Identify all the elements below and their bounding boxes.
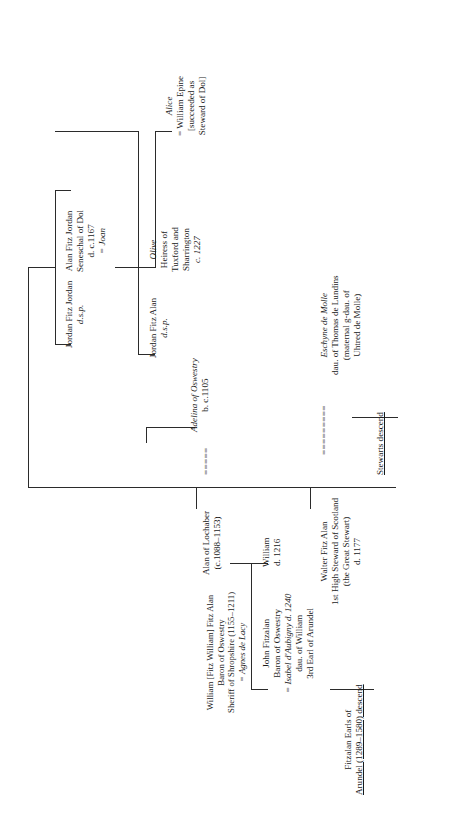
connector-top-spine-vert (138, 131, 139, 267)
person-alice: Alice = William Epine [succeeded as Stew… (164, 76, 208, 136)
connector-alanfj-out (115, 267, 139, 268)
connector-wfa-children-bracket (251, 563, 252, 690)
person-walter-fitz-alan: Walter Fitz Alan 1st High Steward of Sco… (319, 498, 363, 605)
descent-label-line-1: Fitzalan Earls of (343, 684, 354, 795)
person-note-2: Steward of Dol] (197, 76, 208, 136)
person-spouse: = Isabel d'Aubigny d. 1240 (283, 594, 294, 693)
connector-main-children-spine (28, 487, 396, 488)
person-name: Alan of Lochaber (201, 511, 212, 575)
marriage-link-2: ========= (319, 405, 329, 455)
person-dates: b. c.1105 (200, 358, 211, 432)
person-name: Alan Fitz Jordan (64, 210, 75, 272)
connector-stub-williamfa (196, 487, 197, 509)
person-title-1: 1st High Steward of Scotland (330, 498, 341, 605)
person-alan-fitz-jordan: Alan Fitz Jordan Seneschal of Dol d. c.1… (64, 210, 108, 272)
connector-alanfj-children (138, 267, 139, 355)
person-spouse: = William Epine (175, 76, 186, 136)
person-name: William (261, 538, 272, 567)
person-desc-2: (maternal g-dau. of (341, 275, 352, 375)
connector-stub-walterfa (310, 487, 311, 509)
person-adelina-of-oswestry: Adelina of Oswestry b. c.1105 (189, 358, 211, 432)
person-spouse: = Agnes de Lacy (237, 592, 248, 713)
person-olive: Olive Heiress of Tuxford and Sharrington… (148, 227, 203, 272)
connector-adelina-top (146, 427, 195, 428)
person-note: d.s.p. (159, 298, 170, 358)
person-desc-2: Tuxford and (170, 227, 181, 272)
person-desc-3: Sharrington (181, 227, 192, 272)
person-desc-1: dau. of Thomas de Lundins (330, 275, 341, 375)
person-spouse: = Joan (97, 210, 108, 272)
person-title: Baron of Oswestry (272, 594, 283, 693)
person-note: d.s.p. (75, 281, 86, 348)
connector-parent-stub-1 (28, 267, 56, 268)
marriage-link-1: ===== (201, 447, 211, 475)
connector-wfa-children-out (230, 563, 252, 564)
person-desc-2: 3rd Earl of Arundel (305, 594, 316, 693)
person-name: Olive (148, 227, 159, 272)
connector-sibling-stub-alan (55, 190, 71, 191)
person-name: Walter Fitz Alan (319, 498, 330, 605)
person-name: Jordan Fitz Jordan (64, 281, 75, 348)
descent-note-fitzalan: Fitzalan Earls of Arundel (1289–1580) de… (343, 684, 365, 795)
connector-adelina-vert (146, 427, 147, 443)
person-desc-1: dau. of William (294, 594, 305, 693)
person-title-2: (the Great Stewart) (341, 498, 352, 605)
person-jordan-fitz-jordan: Jordan Fitz Jordan d.s.p. (64, 281, 86, 348)
person-dates: d. 1177 (352, 498, 363, 605)
descent-label: Stewarts descend (375, 412, 386, 475)
person-name: Jordan Fitz Alan (148, 298, 159, 358)
person-dates: (c.1088–1153) (212, 511, 223, 575)
family-tree-chart: Jordan Fitz Jordan d.s.p. Alan Fitz Jord… (0, 0, 454, 815)
person-john-fitzalan: John Fitzalan Baron of Oswestry = Isabel… (261, 594, 316, 693)
person-dates: d. c.1167 (86, 210, 97, 272)
person-william-fitz-alan: William [Fitz William] Fitz Alan Baron o… (205, 592, 248, 713)
person-jordan-fitz-alan: Jordan Fitz Alan d.s.p. (148, 298, 170, 358)
person-title: Seneschal of Dol (75, 210, 86, 272)
descent-note-stewarts: Stewarts descend (375, 412, 386, 475)
person-name: John Fitzalan (261, 594, 272, 693)
person-name: Adelina of Oswestry (189, 358, 200, 432)
person-dates: c. 1227 (192, 227, 203, 272)
person-desc-3: Uhtred de Molle) (352, 275, 363, 375)
person-dates: d. 1216 (272, 538, 283, 567)
person-alan-of-lochaber: Alan of Lochaber (c.1088–1153) (201, 511, 223, 575)
connector-main-left-drop (28, 267, 29, 488)
person-name: William [Fitz William] Fitz Alan (205, 592, 216, 713)
person-title-2: Sheriff of Shropshire (1155–1211) (226, 592, 237, 713)
person-william-d1216: William d. 1216 (261, 538, 283, 567)
person-title-1: Baron of Oswestry (216, 592, 227, 713)
person-desc-1: Heiress of (159, 227, 170, 272)
connector-top-spine (55, 131, 139, 132)
person-name: Eschyne de Molle (319, 275, 330, 375)
descent-label-line-2: Arundel (1289–1580) descend (354, 684, 365, 795)
person-eschyne-de-molle: Eschyne de Molle dau. of Thomas de Lundi… (319, 275, 363, 375)
person-name: Alice (164, 76, 175, 136)
person-note-1: [succeeded as (186, 76, 197, 136)
